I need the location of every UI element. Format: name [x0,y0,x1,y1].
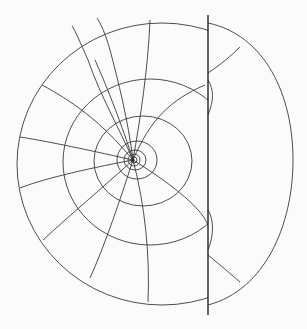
radial-line-8 [133,160,148,302]
radial-line-7 [90,160,133,278]
outer-boundary-arc [208,23,293,305]
radial-line-10 [42,85,133,160]
cross-line-2 [208,255,240,282]
right-region-lines [208,23,293,305]
nested-rings [17,23,307,305]
conformal-grid-diagram [0,0,307,329]
ring-4 [94,116,192,206]
radial-field-lines [20,18,208,302]
ring-6 [17,23,307,305]
radial-line-1 [97,18,133,160]
ring-5 [63,79,237,245]
radial-line-0 [72,26,133,160]
radial-line-5 [20,160,133,188]
cross-line-0 [208,47,240,73]
pole-point [132,159,135,162]
radial-line-2 [133,20,150,160]
diagram-canvas [0,0,307,329]
radial-line-11 [95,60,133,160]
